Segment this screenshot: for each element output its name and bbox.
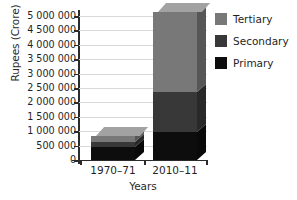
x-axis-tick-label: 2010–11: [135, 164, 215, 176]
y-axis-tick-label: 500 000: [0, 141, 76, 151]
y-axis-tick-label: 0: [0, 155, 76, 165]
bar-column: [153, 16, 197, 160]
legend-label: Tertiary: [233, 13, 272, 25]
bar-segment-tertiary: [91, 136, 135, 142]
x-axis-title: Years: [79, 180, 207, 192]
legend-item: Secondary: [215, 33, 297, 48]
bar-segment-tertiary: [153, 12, 197, 92]
legend-label: Primary: [233, 57, 274, 69]
legend-label: Secondary: [233, 35, 289, 47]
y-axis-tick-label: 2 500 000: [0, 83, 76, 93]
bar-top-face: [96, 127, 148, 136]
bar-column: [91, 16, 135, 160]
y-axis-tick-label: 4 000 000: [0, 40, 76, 50]
legend-item: Tertiary: [215, 11, 297, 26]
stacked-bar-chart: Rupees (Crore) 0500 0001 000 0001 500 00…: [0, 0, 297, 200]
y-axis-tick-label: 2 000 000: [0, 97, 76, 107]
bar-segment-secondary: [91, 142, 135, 147]
bar-top-face: [158, 3, 210, 12]
x-axis-tick-mark: [144, 160, 146, 165]
y-axis-tick-label: 5 000 000: [0, 11, 76, 21]
bar-segment-side: [197, 84, 206, 132]
y-axis-tick-label: 3 500 000: [0, 54, 76, 64]
y-axis-tick-label: 1 500 000: [0, 112, 76, 122]
bar-segment-primary: [91, 147, 135, 160]
plot-area: [79, 16, 207, 160]
y-axis-tick-group: 0500 0001 000 0001 500 0002 000 0002 500…: [0, 0, 76, 200]
y-axis-tick-label: 1 000 000: [0, 126, 76, 136]
legend-item: Primary: [215, 55, 297, 70]
bar-segment-primary: [153, 132, 197, 160]
bar-segment-side: [197, 4, 206, 92]
bar-segment-secondary: [153, 92, 197, 132]
legend: TertiarySecondaryPrimary: [215, 11, 297, 77]
legend-swatch-secondary: [215, 35, 227, 47]
y-axis-tick-label: 3 000 000: [0, 69, 76, 79]
y-axis-tick-label: 4 500 000: [0, 25, 76, 35]
x-axis-tick-mark: [80, 160, 82, 165]
x-axis-tick-mark: [206, 160, 208, 165]
legend-swatch-tertiary: [215, 13, 227, 25]
legend-swatch-primary: [215, 57, 227, 69]
